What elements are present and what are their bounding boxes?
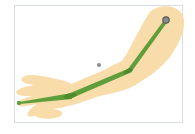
shoulder-joint-icon[interactable] bbox=[163, 17, 169, 23]
fingertip-joint-icon[interactable] bbox=[17, 101, 21, 105]
rig-canvas bbox=[0, 0, 195, 134]
arm-rig-diagram bbox=[0, 0, 195, 134]
pivot-point-icon[interactable] bbox=[97, 63, 101, 67]
